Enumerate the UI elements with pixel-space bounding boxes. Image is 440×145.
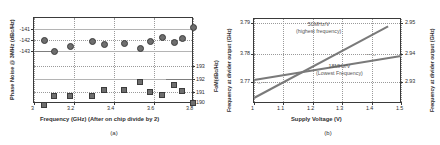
gridline-v [254,19,255,102]
panel-b-xtick-5: 1.5 [396,105,403,111]
panel-b-ytick-right-1: 2.94 [405,50,415,56]
gridline-v [342,19,343,102]
gridline-v [401,19,402,102]
panel-b-xlabel: Supply Voltage (V) [291,116,342,122]
data-point-square [67,93,73,99]
data-point-circle [147,38,154,45]
axis-tick [400,82,403,83]
gridline-v [154,18,155,102]
panel-b-ylabel-right: Frequency at divider output (GHz) [429,28,435,112]
data-point-circle [159,34,166,41]
panel-b-xtick-3: 1.3 [336,105,343,111]
data-point-square [41,102,47,108]
gridline-h [34,29,192,30]
panel-b-ytick-left-0: 3.79 [228,19,250,25]
data-point-circle [179,35,186,42]
panel-b-ytick-left-1: 3.78 [228,50,250,56]
data-point-circle [171,39,178,46]
panel-b-ytick-right-2: 2.93 [405,78,415,84]
panel-a-xtick-4: 3.8 [186,105,193,111]
axis-tick [251,23,254,24]
panel-a-ytick-right-3: 190 [196,99,205,105]
gridline-v [193,18,194,102]
data-point-square [137,79,143,85]
panel-a-caption: (a) [94,130,134,136]
annotation-highest-frequency-line1: 50MHz/V [296,21,341,28]
axis-tick [192,92,195,93]
annotation-highest-frequency: 50MHz/V (highest frequency) [296,21,341,34]
data-point-circle [51,48,58,55]
panel-a-xtick-1: 3.2 [67,105,74,111]
panel-a-ytick-right-0: 193 [196,63,205,69]
data-point-square [121,87,127,93]
gridline-h [254,54,400,55]
panel-a-xtick-2: 3.4 [107,105,114,111]
data-point-square [171,82,177,88]
annotation-lowest-frequency-line2: (Lowest Frequency) [316,70,363,77]
gridline-h [34,40,192,41]
panel-b-ylabel-left: Frequency at divider output (GHz) [226,28,232,112]
axis-tick [31,40,34,41]
axis-tick [192,66,195,67]
data-point-square [101,87,107,93]
data-point-circle [190,24,197,31]
gridline-v [283,19,284,102]
figure-container: Phase Noise @ 3MHz (dBc/Hz) FoM(dBc/Hz) … [0,0,440,145]
gridline-h [34,92,192,93]
data-point-circle [121,40,128,47]
data-point-circle [41,37,48,44]
gridline-h [34,51,192,52]
panel-b: Frequency at divider output (GHz) Freque… [218,0,440,145]
panel-b-ytick-right-0: 2.95 [405,19,415,25]
gridline-v [114,18,115,102]
panel-a-xtick-0: 3 [31,105,34,111]
annotation-lowest-frequency: 18MHz/V (Lowest Frequency) [316,63,363,76]
panel-a-ytick-left-2: -143 [12,48,30,54]
axis-tick [400,23,403,24]
annotation-lowest-frequency-line1: 18MHz/V [316,63,363,70]
panel-a-ytick-left-1: -142 [12,37,30,43]
data-point-square [89,93,95,99]
panel-a-ytick-right-2: 191 [196,89,205,95]
panel-b-xtick-0: 1 [251,105,254,111]
panel-a-ytick-right-1: 192 [196,76,205,82]
panel-a-xlabel: Frequency (GHz) (After on chip divide by… [40,116,159,122]
arrow-left-axis: ←–– [257,79,268,85]
data-point-circle [67,43,74,50]
axis-tick [251,82,254,83]
axis-tick [34,102,35,105]
panel-b-xtick-2: 1.2 [307,105,314,111]
panel-b-xtick-4: 1.4 [366,105,373,111]
gridline-h [254,82,400,83]
panel-a-ytick-left-0: -141 [12,26,30,32]
data-point-circle [137,45,144,52]
data-point-circle [89,38,96,45]
data-point-square [51,93,57,99]
panel-a: Phase Noise @ 3MHz (dBc/Hz) FoM(dBc/Hz) … [0,0,220,145]
gridline-v [74,18,75,102]
gridline-h [34,66,192,67]
arrow-right-axis: ––→ [366,51,377,57]
annotation-highest-frequency-line2: (highest frequency) [296,28,341,35]
series-connector [166,79,192,80]
gridline-v [34,18,35,102]
data-point-square [147,89,153,95]
data-point-square [159,92,165,98]
panel-b-xtick-1: 1.1 [277,105,284,111]
panel-b-ytick-left-2: 3.77 [228,78,250,84]
panel-a-xtick-3: 3.6 [147,105,154,111]
panel-b-caption: (b) [308,130,348,136]
data-point-square [179,88,185,94]
axis-tick [31,29,34,30]
data-point-circle [101,41,108,48]
axis-tick [254,102,255,105]
axis-tick [251,54,254,55]
panel-a-plot-area [33,17,193,103]
axis-tick [192,79,195,80]
